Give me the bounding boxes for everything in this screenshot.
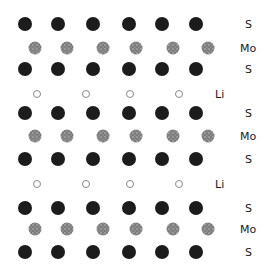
mo-atom [97,42,110,55]
s-atom [18,245,32,259]
li-atom [83,91,90,98]
mo-atom [202,223,215,236]
s-atom [51,152,65,166]
layer-label-mo: Mo [240,223,256,236]
layer-label-s: S [245,107,252,120]
s-atom [155,62,169,76]
layer-label-s: S [245,153,252,166]
s-atom [86,245,100,259]
mo-atom [29,42,42,55]
s-atom [189,201,203,215]
mo-atom [29,223,42,236]
s-atom [51,62,65,76]
s-atom [51,201,65,215]
mo-atom [61,42,74,55]
mo-atom [130,223,143,236]
s-atom [18,201,32,215]
layer-label-s: S [245,246,252,259]
layer-label-s: S [245,63,252,76]
s-atom [86,17,100,31]
s-atom [189,106,203,120]
s-atom [122,62,136,76]
mo-atom [130,130,143,143]
mo-atom [167,223,180,236]
s-atom [86,201,100,215]
s-atom [155,17,169,31]
s-atom [155,106,169,120]
li-atom [127,181,134,188]
s-atom [86,106,100,120]
s-atom [86,152,100,166]
mo-atom [97,223,110,236]
s-atom [51,245,65,259]
s-atom [189,17,203,31]
mo-atom [61,223,74,236]
s-atom [122,245,136,259]
s-atom [51,17,65,31]
s-atom [122,106,136,120]
li-atom [34,91,41,98]
layer-label-s: S [245,202,252,215]
mo-atom [202,42,215,55]
layer-label-mo: Mo [240,130,256,143]
li-atom [34,181,41,188]
mo-atom [167,130,180,143]
li-atom [176,181,183,188]
s-atom [155,245,169,259]
s-atom [122,17,136,31]
mos2-li-structure-diagram: SMoSLiSMoSLiSMoS [0,0,270,270]
mo-atom [167,42,180,55]
s-atom [189,62,203,76]
mo-atom [29,130,42,143]
mo-atom [97,130,110,143]
s-atom [189,152,203,166]
s-atom [122,152,136,166]
s-atom [122,201,136,215]
layer-label-li: Li [215,178,224,191]
mo-atom [202,130,215,143]
li-atom [176,91,183,98]
s-atom [189,245,203,259]
layer-label-mo: Mo [240,42,256,55]
s-atom [155,152,169,166]
s-atom [51,106,65,120]
mo-atom [130,42,143,55]
li-atom [83,181,90,188]
s-atom [86,62,100,76]
s-atom [18,152,32,166]
s-atom [18,106,32,120]
mo-atom [61,130,74,143]
li-atom [127,91,134,98]
layer-label-s: S [245,18,252,31]
s-atom [18,17,32,31]
s-atom [155,201,169,215]
layer-label-li: Li [215,88,224,101]
s-atom [18,62,32,76]
